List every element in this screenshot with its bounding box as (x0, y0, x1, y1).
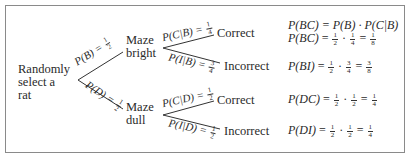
node-maze-bright: Maze bright (126, 34, 156, 60)
node-line-2: dull (126, 114, 154, 127)
equals-sign: = (319, 123, 326, 137)
fraction: 14 (368, 124, 374, 139)
fraction: 18 (370, 32, 376, 47)
equation-bc-value: P(BC) = 12 · 14 = 18 (288, 32, 377, 47)
equals-sign: = (359, 31, 366, 45)
node-line-2: bright (126, 47, 156, 60)
equals-sign: = (357, 123, 364, 137)
fraction: 12 (347, 124, 353, 139)
equation-dc-value: P(DC) = 12 · 12 = 14 (288, 93, 378, 108)
fraction: 12 (332, 32, 338, 47)
eq-lhs: P(BC) (288, 18, 319, 32)
fraction: 12 (330, 124, 336, 139)
leaf-bright-correct: Correct (217, 27, 254, 40)
multiply-dot: · (342, 31, 346, 45)
equals-sign: = (323, 92, 330, 106)
fraction: 14 (372, 93, 378, 108)
fraction: 14 (350, 32, 356, 47)
leaf-dull-incorrect: Incorrect (224, 125, 269, 138)
equals-sign: = (361, 92, 368, 106)
root-line-3: rat (18, 89, 70, 102)
fraction: 12 (334, 93, 340, 108)
fraction: 38 (366, 60, 372, 75)
eq-lhs: P(DC) (288, 92, 320, 106)
fraction: 12 (351, 93, 357, 108)
eq-lhs: P(BC) (288, 31, 319, 45)
equals-sign: = (355, 59, 362, 73)
equation-bi-value: P(BI) = 12 · 34 = 38 (288, 60, 373, 75)
equals-sign: = (322, 31, 329, 45)
equals-sign: = (318, 59, 325, 73)
fraction: 12 (328, 60, 334, 75)
leaf-bright-incorrect: Incorrect (224, 60, 269, 73)
eq-lhs: P(BI) (288, 59, 315, 73)
multiply-dot: · (339, 123, 343, 137)
multiply-dot: · (338, 59, 342, 73)
leaf-dull-correct: Correct (217, 94, 254, 107)
eq-rhs: = P(B) · P(C|B) (322, 18, 399, 32)
eq-lhs: P(DI) (288, 123, 316, 137)
fraction: 34 (346, 60, 352, 75)
multiply-dot: · (343, 92, 347, 106)
root-node-label: Randomly select a rat (18, 63, 70, 102)
node-maze-dull: Maze dull (126, 101, 154, 127)
equation-di-value: P(DI) = 12 · 12 = 14 (288, 124, 374, 139)
